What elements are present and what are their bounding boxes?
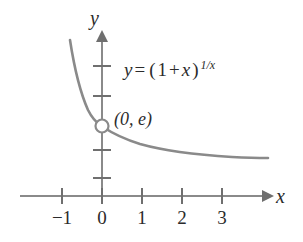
equation-open-paren: ( [147,59,157,80]
open-point-marker [96,120,109,133]
x-tick-label--1: −1 [46,208,78,227]
equation-annotation: y=(1+x)1/x [124,59,215,79]
function-curve-right-branch [103,127,268,158]
x-tick-label-0: 0 [86,208,118,227]
y-axis-arrowhead [96,30,108,42]
x-tick-label-2: 2 [166,208,198,227]
point-annotation-label: (0, e) [114,110,152,128]
curve-group [70,40,268,158]
x-tick-label-1: 1 [126,208,158,227]
equation-equals: = [132,59,147,80]
equation-plus: + [167,59,182,80]
y-axis-label: y [90,8,99,28]
x-axis-label: x [276,186,285,206]
equation-one: 1 [157,59,167,80]
equation-close-paren: ) [190,59,200,80]
x-axis-arrowhead [262,190,274,202]
function-curve-left-branch [70,40,101,126]
equation-variable: x [182,59,190,80]
graph-figure: y x (0, e) y=(1+x)1/x −1 0 1 2 3 [0,0,303,242]
equation-exponent: 1/x [200,58,215,72]
x-tick-label-3: 3 [206,208,238,227]
